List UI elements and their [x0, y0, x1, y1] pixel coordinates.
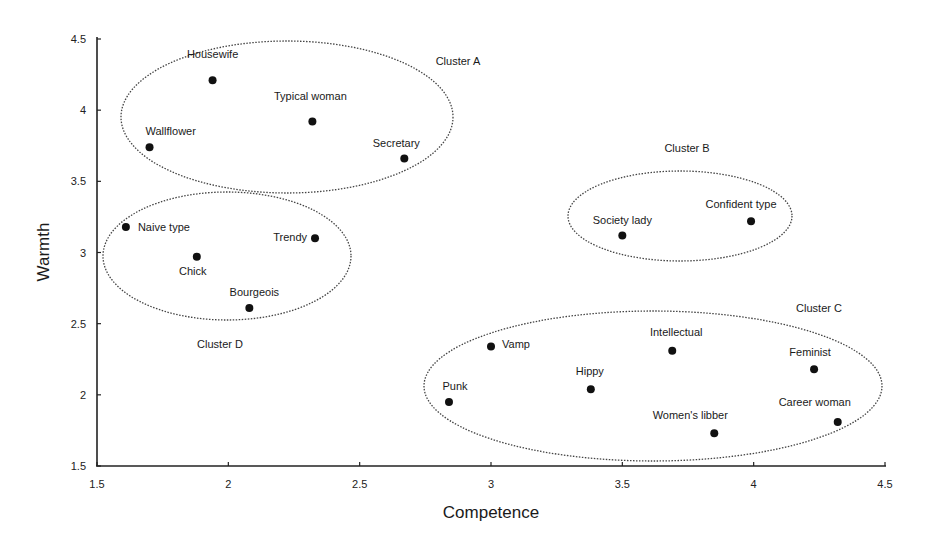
- x-tick-label: 2.5: [352, 478, 367, 490]
- point-marker: [834, 418, 842, 426]
- data-point: Bourgeois: [230, 286, 280, 312]
- data-point: Confident type: [706, 198, 777, 225]
- cluster-ellipses: [103, 41, 882, 461]
- point-marker: [747, 217, 755, 225]
- point-label: Wallflower: [146, 125, 197, 137]
- scatter-chart: 1.522.533.544.5 1.522.533.544.5 Housewif…: [0, 0, 936, 545]
- point-label: Feminist: [789, 346, 831, 358]
- x-tick-label: 4: [751, 478, 757, 490]
- point-label: Confident type: [706, 198, 777, 210]
- data-point: Trendy: [273, 231, 319, 243]
- data-point: Housewife: [187, 48, 238, 84]
- y-tick-label: 3.5: [71, 175, 86, 187]
- point-label: Women's libber: [653, 409, 729, 421]
- x-tick-label: 1.5: [89, 478, 104, 490]
- point-label: Secretary: [373, 137, 421, 149]
- y-axis-title: Warmth: [34, 223, 53, 282]
- data-points: HousewifeTypical womanWallflowerSecretar…: [122, 48, 851, 437]
- point-label: Intellectual: [650, 326, 703, 338]
- point-marker: [445, 398, 453, 406]
- cluster-d-label: Cluster D: [197, 338, 243, 350]
- x-tick-label: 4.5: [877, 478, 892, 490]
- y-tick-label: 2: [80, 389, 86, 401]
- data-point: Typical woman: [274, 90, 347, 126]
- point-label: Typical woman: [274, 90, 347, 102]
- point-marker: [146, 143, 154, 151]
- data-point: Women's libber: [653, 409, 729, 437]
- point-label: Punk: [442, 380, 468, 392]
- point-marker: [618, 231, 626, 239]
- point-label: Trendy: [273, 231, 307, 243]
- data-point: Wallflower: [146, 125, 197, 151]
- data-point: Feminist: [789, 346, 831, 373]
- data-point: Naive type: [122, 221, 190, 233]
- point-marker: [209, 76, 217, 84]
- point-label: Career woman: [779, 396, 851, 408]
- data-point: Career woman: [779, 396, 851, 426]
- y-tick-label: 3: [80, 247, 86, 259]
- point-label: Chick: [179, 265, 207, 277]
- point-marker: [400, 155, 408, 163]
- point-marker: [710, 429, 718, 437]
- data-point: Punk: [442, 380, 468, 406]
- point-marker: [122, 223, 130, 231]
- point-marker: [245, 304, 253, 312]
- point-label: Hippy: [576, 365, 605, 377]
- y-tick-label: 4.5: [71, 33, 86, 45]
- y-tick-label: 1.5: [71, 460, 86, 472]
- cluster-a-ellipse: [121, 41, 453, 193]
- point-label: Naive type: [138, 221, 190, 233]
- data-point: Vamp: [487, 338, 530, 350]
- y-tick-label: 4: [80, 104, 86, 116]
- point-marker: [487, 342, 495, 350]
- cluster-a-label: Cluster A: [436, 55, 481, 67]
- point-label: Housewife: [187, 48, 238, 60]
- point-label: Bourgeois: [230, 286, 280, 298]
- x-tick-label: 3.5: [615, 478, 630, 490]
- data-point: Society lady: [593, 214, 653, 239]
- point-marker: [308, 118, 316, 126]
- point-marker: [311, 234, 319, 242]
- cluster-c-label: Cluster C: [796, 302, 842, 314]
- point-marker: [668, 347, 676, 355]
- point-marker: [193, 253, 201, 261]
- point-label: Vamp: [502, 338, 530, 350]
- data-point: Chick: [179, 253, 207, 277]
- x-axis-title: Competence: [443, 503, 539, 522]
- data-point: Secretary: [373, 137, 421, 163]
- y-tick-label: 2.5: [71, 318, 86, 330]
- point-marker: [587, 385, 595, 393]
- x-tick-label: 2: [225, 478, 231, 490]
- data-point: Hippy: [576, 365, 605, 393]
- point-label: Society lady: [593, 214, 653, 226]
- axes: [96, 37, 886, 466]
- cluster-d-ellipse: [103, 192, 351, 320]
- data-point: Intellectual: [650, 326, 703, 355]
- cluster-b-label: Cluster B: [664, 142, 709, 154]
- point-marker: [810, 365, 818, 373]
- x-tick-label: 3: [488, 478, 494, 490]
